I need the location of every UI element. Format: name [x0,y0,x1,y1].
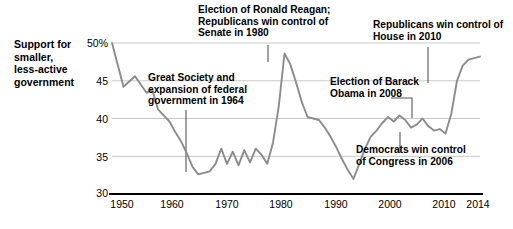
x-tick-label-1960: 1960 [152,199,192,210]
annotation-great-society: Great Society and expansion of federal g… [148,72,258,107]
leader-line-obama [391,98,412,118]
x-tick-label-1990: 1990 [316,199,356,210]
x-tick-label-2014: 2014 [458,199,498,210]
annotation-obama-2008: Election of Barack Obama in 2008 [330,76,435,99]
annotation-republicans-house-2010: Republicans win control of House in 2010 [373,19,508,42]
annotation-reagan: Election of Ronald Reagan; Republicans w… [198,4,348,39]
x-tick-label-1970: 1970 [207,199,247,210]
x-tick-label-1950: 1950 [102,199,142,210]
x-tick-label-2000: 2000 [370,199,410,210]
x-tick-label-1980: 1980 [261,199,301,210]
chart-container: Support for smaller, less-active governm… [0,0,513,229]
annotation-democrats-2006: Democrats win control of Congress in 200… [356,144,468,167]
